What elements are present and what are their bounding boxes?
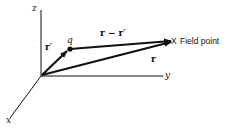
- x-axis-label: x: [6, 116, 11, 125]
- x-axis: [10, 76, 41, 118]
- y-axis-label: y: [165, 71, 170, 80]
- field-point-label: Field point: [180, 37, 219, 46]
- position-vectors-diagram: z y x r′ r − r′ r q X Field point: [0, 0, 236, 130]
- charge-point-dot: [67, 46, 72, 51]
- charge-q-label: q: [67, 36, 73, 45]
- r-prime-label: r′: [45, 43, 52, 52]
- r-label: r: [151, 55, 156, 64]
- r-minus-r-prime-label: r − r′: [100, 29, 126, 38]
- diagram-canvas: [0, 0, 236, 130]
- field-point-marker: X: [171, 37, 177, 46]
- z-axis-label: z: [32, 4, 37, 13]
